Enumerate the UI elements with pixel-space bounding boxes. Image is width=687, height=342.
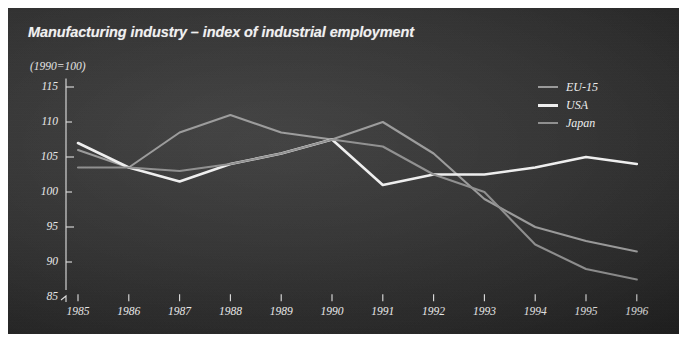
chart-panel: Manufacturing industry – index of indust…: [8, 8, 679, 334]
y-tick-label: 110: [24, 116, 58, 128]
y-tick-label: 105: [24, 151, 58, 163]
x-tick-label: 1993: [459, 306, 509, 318]
x-tick-label: 1988: [205, 306, 255, 318]
axis-lines: [61, 79, 637, 302]
line-swatch-icon: [538, 104, 558, 107]
plot-area: [8, 8, 679, 334]
x-tick-label: 1994: [510, 306, 560, 318]
legend-label: Japan: [566, 116, 595, 131]
series-line-japan: [78, 140, 637, 280]
x-tick-label: 1989: [256, 306, 306, 318]
line-swatch-icon: [538, 86, 558, 88]
x-tick-label: 1992: [409, 306, 459, 318]
x-tick-label: 1986: [104, 306, 154, 318]
line-swatch-icon: [538, 122, 558, 124]
y-tick-label: 115: [24, 81, 58, 93]
series-line-eu-15: [78, 115, 637, 252]
y-tick-label: 90: [24, 256, 58, 268]
x-tick-label: 1991: [358, 306, 408, 318]
series-lines: [78, 115, 637, 280]
x-tick-label: 1987: [155, 306, 205, 318]
y-tick-label: 95: [24, 221, 58, 233]
series-line-usa: [78, 140, 637, 186]
legend-label: EU-15: [566, 80, 598, 95]
y-tick-label: 100: [24, 186, 58, 198]
x-tick-label: 1985: [53, 306, 103, 318]
legend-label: USA: [566, 98, 588, 113]
x-tick-label: 1995: [561, 306, 611, 318]
x-tick-label: 1990: [307, 306, 357, 318]
chart-figure: Manufacturing industry – index of indust…: [0, 0, 687, 342]
y-tick-label: 85: [24, 291, 58, 303]
x-tick-label: 1996: [612, 306, 662, 318]
